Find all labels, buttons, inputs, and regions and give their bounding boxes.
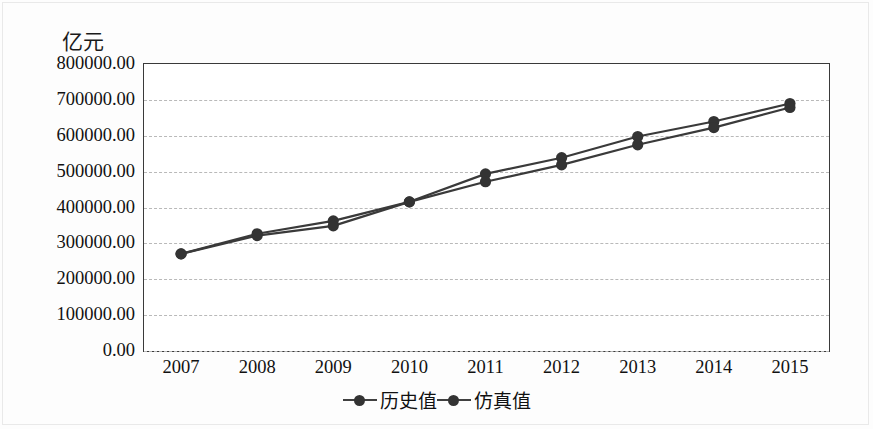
legend-entry-historical: 历史值: [343, 386, 437, 413]
gridline: [144, 243, 829, 244]
x-axis-tick-label: 2013: [619, 357, 656, 378]
gridline: [144, 172, 829, 173]
y-axis-unit-label: 亿元: [62, 25, 104, 55]
x-axis-tick-label: 2015: [771, 357, 808, 378]
y-axis-tick-label: 400000.00: [5, 196, 135, 217]
plot-area: [143, 63, 830, 352]
legend-line-marker-icon: [437, 393, 471, 407]
gridline: [144, 136, 829, 137]
x-axis-tick-label: 2009: [315, 357, 352, 378]
gridline: [144, 279, 829, 280]
y-axis-tick-label: 100000.00: [5, 304, 135, 325]
y-axis-tick-labels: 0.00100000.00200000.00300000.00400000.00…: [0, 63, 135, 350]
legend-line-marker-icon: [343, 393, 377, 407]
gridline: [144, 100, 829, 101]
y-axis-tick-label: 0.00: [5, 340, 135, 361]
legend-entry-simulated: 仿真值: [437, 386, 531, 413]
gridline: [144, 315, 829, 316]
x-axis-tick-label: 2007: [163, 357, 200, 378]
x-axis-tick-label: 2008: [239, 357, 276, 378]
y-axis-tick-label: 600000.00: [5, 124, 135, 145]
y-axis-tick-label: 300000.00: [5, 232, 135, 253]
x-axis-tick-label: 2011: [467, 357, 503, 378]
y-axis-tick-label: 500000.00: [5, 160, 135, 181]
gridline: [144, 208, 829, 209]
chart-legend: 历史值 仿真值: [0, 386, 873, 413]
legend-label-historical: 历史值: [377, 386, 437, 413]
x-axis-tick-label: 2014: [695, 357, 732, 378]
x-axis-tick-label: 2010: [391, 357, 428, 378]
legend-label-simulated: 仿真值: [471, 386, 531, 413]
gridline: [144, 351, 829, 352]
y-axis-tick-label: 700000.00: [5, 88, 135, 109]
x-axis-tick-label: 2012: [543, 357, 580, 378]
chart-figure: 亿元 0.00100000.00200000.00300000.00400000…: [0, 0, 873, 429]
y-axis-tick-label: 200000.00: [5, 268, 135, 289]
y-axis-tick-label: 800000.00: [5, 53, 135, 74]
